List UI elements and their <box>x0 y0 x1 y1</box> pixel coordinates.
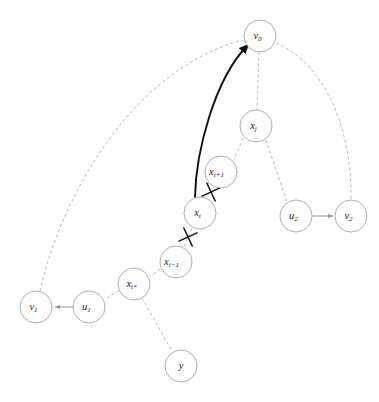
node-circle-xim1 <box>160 246 192 278</box>
graph-node-y[interactable]: y <box>165 350 197 382</box>
graph-node-u2[interactable]: u2 <box>280 200 312 232</box>
graph-node-u1[interactable]: u1 <box>73 291 105 323</box>
node-circle-xtstar <box>118 268 150 300</box>
edge-v0-to-v2 <box>276 43 351 200</box>
edge-xtstar-to-y <box>142 298 172 351</box>
edge-xim1-to-xtstar <box>150 269 160 277</box>
edge-xj-to-xi1 <box>234 138 243 160</box>
node-circle-u2 <box>280 200 312 232</box>
edge-xtstar-to-u1 <box>105 291 119 299</box>
graph-node-xi1[interactable]: xi+1 <box>205 156 237 188</box>
top-clipped-text <box>0 0 379 8</box>
edge-v0-to-xj <box>257 52 259 110</box>
graph-node-xj[interactable]: xj <box>240 110 272 142</box>
node-circle-v1 <box>20 291 52 323</box>
graph-node-xi[interactable]: xi <box>184 197 216 229</box>
figure-caption <box>0 392 379 402</box>
node-circle-xj <box>240 110 272 142</box>
node-circle-v0 <box>244 20 276 52</box>
graph-node-v0[interactable]: v0 <box>244 20 276 52</box>
graph-node-xim1[interactable]: xi−1 <box>160 246 192 278</box>
node-circle-v2 <box>335 200 367 232</box>
graph-node-v1[interactable]: v1 <box>20 291 52 323</box>
node-circle-xi1 <box>205 156 237 188</box>
graph-node-xtstar[interactable]: xt* <box>118 268 150 300</box>
graph-canvas: v0xjxi+1xixi−1xt*u1v1yu2v2 <box>0 0 379 402</box>
graph-node-v2[interactable]: v2 <box>335 200 367 232</box>
cut-mark-icon <box>179 228 197 246</box>
node-circle-u1 <box>73 291 105 323</box>
node-circle-xi <box>184 197 216 229</box>
node-circle-y <box>165 350 197 382</box>
figure-root: v0xjxi+1xixi−1xt*u1v1yu2v2 <box>0 0 379 402</box>
edge-xj-to-u2 <box>266 140 287 202</box>
